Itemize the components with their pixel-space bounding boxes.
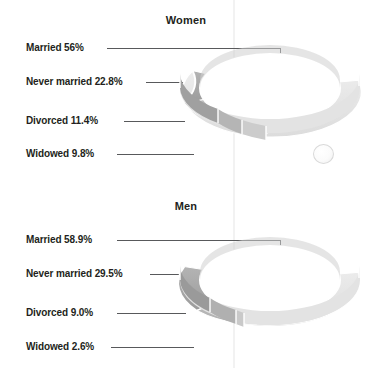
label-men-divorced: Divorced 9.0% xyxy=(26,307,93,318)
label-men-widowed: Widowed 2.6% xyxy=(26,341,94,352)
decorative-knob-women xyxy=(313,144,334,164)
label-men-never-married: Never married 29.5% xyxy=(26,268,123,279)
chart-panel-women: Women Married 56% Never married 22.8% Di… xyxy=(0,0,372,184)
chart-panel-men: Men Married 58.9% Never married 29.5% Di… xyxy=(0,184,372,368)
label-women-married: Married 56% xyxy=(26,42,84,53)
label-women-widowed: Widowed 9.8% xyxy=(26,148,94,159)
label-women-never-married: Never married 22.8% xyxy=(26,76,123,87)
label-men-married: Married 58.9% xyxy=(26,234,92,245)
label-women-divorced: Divorced 11.4% xyxy=(26,115,98,126)
donut-chart-men xyxy=(170,202,370,368)
donut-chart-women xyxy=(170,10,370,180)
infographic-page: Women Married 56% Never married 22.8% Di… xyxy=(0,0,372,368)
